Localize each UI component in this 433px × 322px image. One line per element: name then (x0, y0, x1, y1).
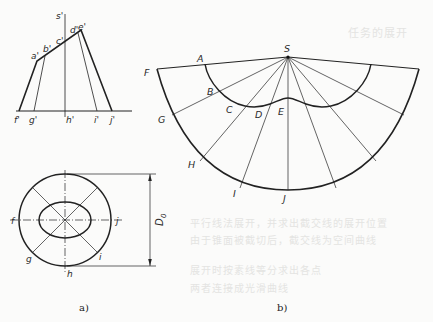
label-d-prime: d' (70, 25, 78, 35)
label-c-prime: c' (56, 36, 63, 46)
label-H: H (188, 159, 195, 170)
technical-drawing: s' a' b' c' d' e' f' g' h' i' j' (0, 0, 433, 322)
elevation-labels: s' a' b' c' d' e' f' g' h' i' j' (14, 11, 115, 125)
plan-view (10, 170, 156, 274)
label-g: g (26, 254, 32, 264)
label-I: I (233, 188, 236, 199)
label-h-prime: h' (66, 115, 74, 125)
generator-right-1 (288, 57, 336, 188)
label-E: E (278, 106, 284, 117)
label-G: G (158, 114, 165, 125)
label-f: f (11, 216, 16, 226)
label-e-prime: e' (78, 22, 86, 32)
generator-s-i (240, 57, 288, 188)
label-J: J (281, 193, 286, 204)
arrow-head-top (148, 174, 152, 181)
label-B: B (207, 86, 214, 97)
truncated-cone-outline (19, 30, 112, 111)
dimension-label-d0: D 0 (154, 213, 168, 226)
label-C: C (226, 104, 233, 115)
generator-line-d-i (78, 33, 97, 111)
label-D: D (255, 109, 262, 120)
label-a-prime: a' (31, 51, 39, 61)
development-view (157, 55, 419, 190)
svg-text:0: 0 (160, 213, 168, 218)
label-b-prime: b' (43, 44, 51, 54)
label-s-prime: s' (56, 11, 63, 21)
label-A: A (196, 53, 204, 64)
label-i-prime: i' (94, 115, 99, 125)
diagram-canvas: 任务的展开 平行线法展开，并求出截交线的展开位置 由于锥面被截切后，截交线为空间… (0, 0, 433, 322)
label-j: j (114, 216, 119, 226)
svg-text:D: D (154, 218, 165, 226)
label-S: S (284, 43, 290, 54)
arrow-head-bottom (148, 259, 152, 266)
label-f-prime: f' (14, 115, 20, 125)
caption-a: a) (79, 302, 89, 313)
generator-s-h (200, 57, 288, 161)
label-g-prime: g' (29, 115, 37, 125)
label-j-prime: j' (108, 115, 115, 125)
caption-b: b) (277, 302, 287, 313)
label-F: F (144, 67, 150, 78)
apex-point (286, 55, 289, 58)
generator-right-2 (288, 57, 376, 161)
plan-labels: f g h i j D 0 (11, 213, 168, 279)
label-h: h (67, 269, 73, 279)
label-i: i (99, 252, 102, 262)
